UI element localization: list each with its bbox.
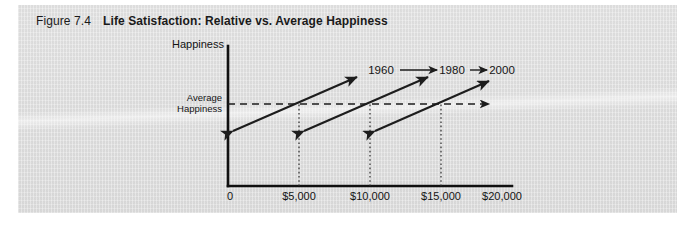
average-happiness-label-line1: Average [187, 92, 222, 103]
x-tick-15000: $15,000 [421, 190, 461, 202]
chart-plot: Happiness Average Happiness 1960 1980 20… [0, 0, 677, 237]
y-axis-title: Happiness [172, 38, 224, 50]
year-label-2000: 2000 [489, 64, 515, 76]
year-label-1960: 1960 [368, 64, 394, 76]
cohort-arrow-2000 [375, 81, 489, 131]
x-tick-10000: $10,000 [350, 190, 390, 202]
x-tick-20000: $20,000 [482, 190, 522, 202]
figure-container: Figure 7.4Life Satisfaction: Relative vs… [0, 0, 677, 237]
x-tick-0: 0 [227, 190, 233, 202]
x-tick-5000: $5,000 [282, 190, 316, 202]
year-label-1980: 1980 [439, 64, 465, 76]
average-happiness-label-line2: Happiness [177, 103, 222, 114]
